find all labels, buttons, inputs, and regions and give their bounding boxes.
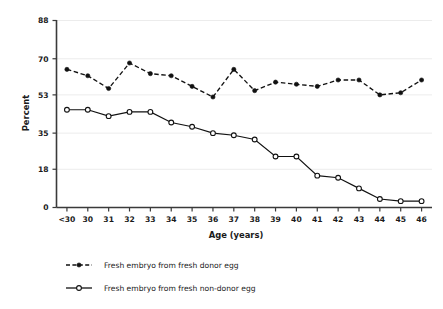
data-point <box>231 133 236 138</box>
data-point <box>232 67 236 71</box>
data-point <box>357 78 361 82</box>
data-point <box>106 114 111 119</box>
data-point <box>419 199 424 204</box>
chart-container: 01835537088 <303031323334353637383940414… <box>0 0 443 309</box>
x-tick-label: 46 <box>416 215 427 224</box>
data-point <box>211 95 215 99</box>
y-axis-ticks-group: 01835537088 <box>38 16 57 212</box>
data-point <box>398 199 403 204</box>
data-point <box>127 109 132 114</box>
data-point <box>85 107 90 112</box>
x-tick-label: 41 <box>312 215 323 224</box>
y-tick-label: 70 <box>38 55 49 64</box>
x-tick-label: 31 <box>103 215 114 224</box>
x-tick-label: <30 <box>58 215 75 224</box>
x-axis-title: Age (years) <box>209 230 264 240</box>
legend-sample-marker-2 <box>77 286 82 291</box>
data-point <box>399 91 403 95</box>
legend-sample-marker-1 <box>77 263 81 267</box>
x-axis-ticks-group: <303031323334353637383940414243444546 <box>58 208 426 224</box>
data-point <box>336 175 341 180</box>
x-tick-label: 44 <box>375 215 386 224</box>
data-point <box>148 72 152 76</box>
x-tick-label: 32 <box>124 215 135 224</box>
series-line-1 <box>67 63 422 97</box>
data-point <box>148 109 153 114</box>
x-tick-label: 35 <box>187 215 198 224</box>
y-tick-label: 88 <box>38 16 49 25</box>
data-point <box>336 78 340 82</box>
data-point <box>377 197 382 202</box>
data-point <box>273 154 278 159</box>
x-tick-label: 30 <box>83 215 94 224</box>
data-point <box>315 84 319 88</box>
x-tick-label: 37 <box>229 215 240 224</box>
x-tick-label: 33 <box>145 215 156 224</box>
data-point <box>127 61 131 65</box>
data-point <box>65 67 69 71</box>
series-line-2 <box>67 110 422 201</box>
data-point <box>294 82 298 86</box>
data-point <box>169 74 173 78</box>
series-group <box>65 61 424 204</box>
data-point <box>169 120 174 125</box>
x-tick-label: 40 <box>291 215 302 224</box>
data-point <box>253 89 257 93</box>
line-chart: 01835537088 <303031323334353637383940414… <box>0 0 443 309</box>
y-tick-label: 53 <box>38 91 49 100</box>
data-point <box>294 154 299 159</box>
legend: Fresh embryo from fresh donor eggFresh e… <box>66 261 256 293</box>
data-point <box>211 131 216 136</box>
y-tick-label: 0 <box>43 203 48 212</box>
data-point <box>357 186 362 191</box>
data-point <box>107 86 111 90</box>
data-point <box>252 137 257 142</box>
x-tick-label: 42 <box>333 215 344 224</box>
data-point <box>419 78 423 82</box>
x-tick-label: 38 <box>249 215 260 224</box>
data-point <box>378 93 382 97</box>
data-point <box>190 124 195 129</box>
x-tick-label: 39 <box>270 215 281 224</box>
data-point <box>86 74 90 78</box>
x-tick-label: 36 <box>208 215 219 224</box>
x-tick-label: 34 <box>166 215 177 224</box>
y-tick-label: 35 <box>38 129 49 138</box>
y-axis-title: Percent <box>21 95 31 132</box>
data-point <box>315 173 320 178</box>
data-point <box>65 107 70 112</box>
gridlines-group <box>57 21 433 170</box>
data-point <box>273 80 277 84</box>
data-point <box>190 84 194 88</box>
x-tick-label: 45 <box>395 215 406 224</box>
legend-label-1: Fresh embryo from fresh donor egg <box>104 261 239 270</box>
y-tick-label: 18 <box>38 165 49 174</box>
legend-label-2: Fresh embryo from fresh non-donor egg <box>104 284 256 293</box>
x-tick-label: 43 <box>354 215 365 224</box>
